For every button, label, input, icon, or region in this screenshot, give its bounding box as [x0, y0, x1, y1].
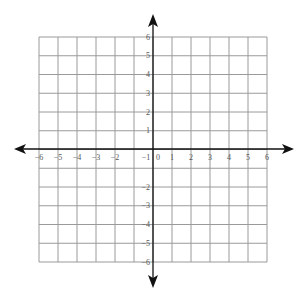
y-tick-label: −4	[141, 220, 150, 229]
y-tick-label: 2	[146, 108, 150, 117]
y-tick-label: 4	[146, 70, 150, 79]
y-tick-label: 1	[146, 126, 150, 135]
x-tick-label: 0	[156, 153, 160, 162]
x-tick-label: −4	[73, 153, 82, 162]
x-tick-label: 6	[265, 153, 269, 162]
x-tick-label: −5	[54, 153, 63, 162]
y-tick-label: −5	[141, 239, 150, 248]
y-tick-label: 3	[146, 89, 150, 98]
y-tick-label: 6	[146, 33, 150, 42]
axes	[14, 14, 294, 288]
x-tick-label: −3	[92, 153, 101, 162]
x-tick-labels: −6−5−4−3−2−10123456	[35, 153, 269, 162]
x-tick-label: 2	[189, 153, 193, 162]
y-tick-label: −6	[141, 258, 150, 267]
y-tick-label: 5	[146, 51, 150, 60]
x-tick-label: 3	[208, 153, 212, 162]
x-tick-label: −6	[35, 153, 44, 162]
x-tick-label: 5	[246, 153, 250, 162]
x-tick-label: −2	[111, 153, 120, 162]
x-tick-label: −1	[142, 153, 151, 162]
x-tick-label: 1	[170, 153, 174, 162]
y-tick-label: −2	[141, 183, 150, 192]
x-tick-label: 4	[227, 153, 231, 162]
coordinate-plane: −6−5−4−3−2−10123456 654321−2−3−4−5−6	[0, 0, 300, 301]
y-tick-label: −3	[141, 201, 150, 210]
